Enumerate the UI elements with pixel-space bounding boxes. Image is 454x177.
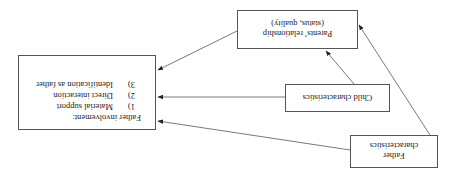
involvement-item: 1) Material support bbox=[19, 102, 141, 112]
involvement-item: 2) Direct interaction bbox=[19, 91, 141, 101]
item-number: 2) bbox=[113, 91, 141, 101]
edge-father-chars-to-parents-rel bbox=[359, 25, 430, 135]
node-father-involvement: Father involvement: 1) Material support … bbox=[18, 55, 156, 130]
node-father-characteristics: Father characteristics bbox=[350, 135, 438, 168]
node-label-line: Parents’ relationship bbox=[263, 30, 332, 40]
node-label-line: Father bbox=[383, 152, 405, 162]
node-child-characteristics: Child characteristics bbox=[285, 84, 390, 112]
node-parents-relationship: Parents’ relationship (status, quality) bbox=[237, 10, 358, 49]
edge-father-chars-to-involvement bbox=[158, 121, 350, 150]
edge-parents-rel-to-involvement bbox=[158, 31, 237, 70]
node-label-line: Child characteristics bbox=[303, 93, 373, 103]
node-title: Father involvement: bbox=[19, 113, 141, 123]
item-number: 1) bbox=[113, 102, 141, 112]
node-label-line: characteristics bbox=[370, 142, 419, 152]
diagram-canvas: Father characteristics Child characteris… bbox=[0, 0, 454, 177]
involvement-list: 1) Material support 2) Direct interactio… bbox=[19, 80, 141, 112]
node-label-line: (status, quality) bbox=[271, 20, 324, 30]
edge-child-chars-to-parents-rel bbox=[326, 51, 354, 84]
involvement-item: 3) Identification as father bbox=[19, 80, 141, 90]
item-number: 3) bbox=[113, 80, 141, 90]
item-label: Direct interaction bbox=[53, 91, 113, 101]
item-label: Material support bbox=[57, 102, 113, 112]
item-label: Identification as father bbox=[36, 80, 113, 90]
